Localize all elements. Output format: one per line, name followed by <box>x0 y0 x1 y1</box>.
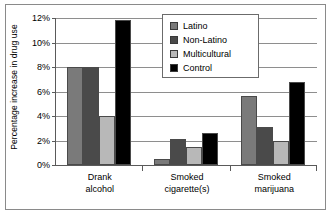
bar <box>202 133 218 165</box>
legend-swatch-icon <box>170 22 178 30</box>
bar-chart-figure: Percentage increase in drug use 0%2%4%6%… <box>0 0 331 215</box>
legend-item-label: Latino <box>183 21 208 31</box>
bar-group <box>55 18 142 165</box>
category-label-line: cigarette(s) <box>143 184 230 196</box>
x-axis-separator <box>230 166 231 171</box>
y-axis-tick-label: 12% <box>32 13 50 23</box>
y-axis-line <box>55 18 56 166</box>
bar <box>289 82 305 165</box>
legend-item-multicultural[interactable]: Multicultural <box>170 47 258 61</box>
legend-item-non-latino[interactable]: Non-Latino <box>170 33 258 47</box>
bar <box>67 67 83 165</box>
legend-item-label: Non-Latino <box>183 35 227 45</box>
y-axis-title: Percentage increase in drug use <box>9 7 19 167</box>
x-axis-separator <box>142 166 143 171</box>
bar <box>83 67 99 165</box>
category-label-line: Smoked <box>231 172 318 184</box>
bar <box>273 141 289 166</box>
y-axis-tick-label: 4% <box>37 111 50 121</box>
category-label-line: Smoked <box>143 172 230 184</box>
category-label-line: marijuana <box>231 184 318 196</box>
y-axis-tick-label: 2% <box>37 136 50 146</box>
x-axis-separator <box>316 166 317 171</box>
chart-legend: LatinoNon-LatinoMulticulturalControl <box>162 14 259 78</box>
legend-swatch-icon <box>170 50 178 58</box>
x-axis-category-label: Smokedcigarette(s) <box>143 172 230 195</box>
y-axis-tick-label: 0% <box>37 160 50 170</box>
x-axis-category-labels: DrankalcoholSmokedcigarette(s)Smokedmari… <box>56 172 318 204</box>
bar <box>241 96 257 165</box>
bar <box>257 127 273 165</box>
x-axis-line <box>55 165 317 166</box>
category-label-line: alcohol <box>56 184 143 196</box>
x-axis-category-label: Drankalcohol <box>56 172 143 195</box>
y-axis-tick-label: 6% <box>37 87 50 97</box>
legend-item-label: Control <box>183 63 212 73</box>
y-axis-tick-label: 10% <box>32 38 50 48</box>
bar <box>115 20 131 165</box>
legend-swatch-icon <box>170 64 178 72</box>
bar <box>186 147 202 165</box>
bar <box>170 139 186 165</box>
legend-item-control[interactable]: Control <box>170 61 258 75</box>
legend-item-latino[interactable]: Latino <box>170 19 258 33</box>
legend-swatch-icon <box>170 36 178 44</box>
bar <box>99 116 115 165</box>
category-label-line: Drank <box>56 172 143 184</box>
x-axis-category-label: Smokedmarijuana <box>231 172 318 195</box>
y-axis-tick-label: 8% <box>37 62 50 72</box>
legend-item-label: Multicultural <box>183 49 231 59</box>
